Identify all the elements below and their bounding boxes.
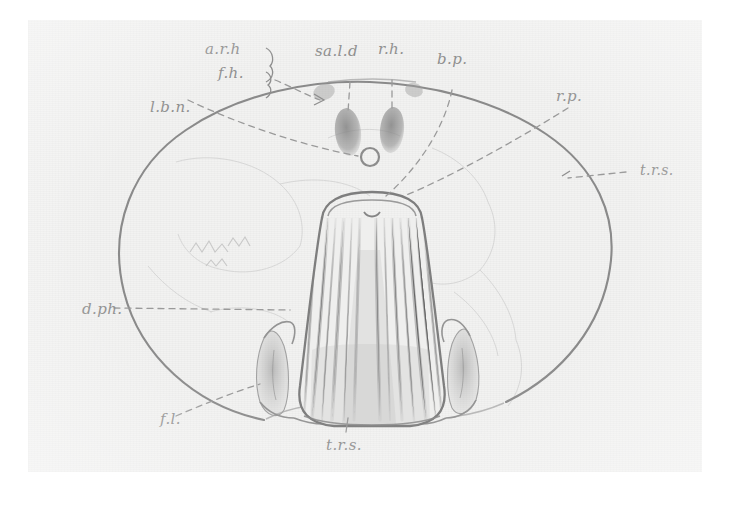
label-r-h: r.h. [378,40,404,58]
label-b-p: b.p. [437,50,467,68]
paired-dark-ovals [311,81,424,157]
label-f-h: f.h. [218,64,244,82]
scribble-marks [190,237,250,266]
pencil-drawing [28,20,702,472]
label-t-r-s-bottom: t.r.s. [326,436,362,454]
lateral-leaflet-right [448,329,479,414]
leader-l-b-n [188,100,358,156]
label-sa-l-d: sa.l.d [315,42,358,60]
leader-f-l [176,384,260,416]
label-l-b-n: l.b.n. [150,98,191,116]
leader-t-r-s-right [568,172,626,178]
label-a-r-h: a.r.h [205,40,241,58]
leader-sa-l-d [348,82,350,112]
label-f-l: f.l. [160,410,181,428]
label-r-p: r.p. [556,87,582,105]
small-ring-structure [361,148,379,166]
central-striated-organ [299,192,444,426]
label-t-r-s-right: t.r.s. [640,162,674,178]
label-brace [266,48,273,98]
figure-root: a.r.h f.h. sa.l.d r.h. b.p. r.p. l.b.n. … [0,0,734,507]
scanned-page-area: a.r.h f.h. sa.l.d r.h. b.p. r.p. l.b.n. … [28,20,702,472]
leader-r-p [404,108,568,196]
label-d-ph: d.ph. [82,300,122,318]
